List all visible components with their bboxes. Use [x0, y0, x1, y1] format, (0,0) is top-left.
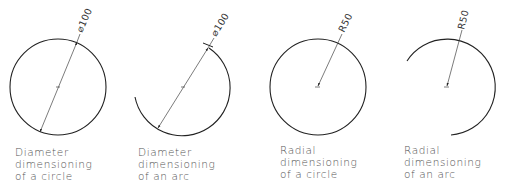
dimension-label: R50 — [336, 11, 355, 34]
caption-line: Diameter — [138, 146, 215, 158]
dimension-label: ⌀100 — [74, 6, 94, 34]
caption-diameter-circle: Diameter dimensioning of a circle — [15, 146, 92, 182]
arc-outline — [407, 39, 495, 135]
caption-diameter-arc: Diameter dimensioning of an arc — [138, 146, 215, 182]
arc-end-tick — [203, 43, 213, 47]
dimension-label: ⌀100 — [208, 11, 231, 38]
caption-line: Diameter — [15, 146, 92, 158]
caption-line: dimensioning — [138, 158, 215, 170]
radius-dimension-line — [318, 34, 342, 86]
caption-line: of an arc — [138, 170, 215, 182]
caption-line: dimensioning — [15, 158, 92, 170]
caption-line: dimensioning — [404, 156, 481, 168]
figure-radial-arc: R50 — [407, 9, 495, 135]
dimension-label: R50 — [455, 9, 470, 31]
caption-line: Radial — [404, 144, 481, 156]
caption-line: of a circle — [15, 170, 92, 182]
arc-outline — [135, 48, 230, 136]
diameter-dimension-line — [158, 48, 208, 128]
figure-diameter-circle: ⌀100 — [10, 6, 106, 135]
caption-line: of a circle — [280, 168, 357, 180]
caption-line: dimensioning — [280, 156, 357, 168]
caption-radial-circle: Radial dimensioning of a circle — [280, 144, 357, 180]
figure-diameter-arc: ⌀100 — [135, 11, 231, 136]
radius-dimension-line — [447, 30, 462, 86]
caption-radial-arc: Radial dimensioning of an arc — [404, 144, 481, 180]
caption-line: of an arc — [404, 168, 481, 180]
caption-line: Radial — [280, 144, 357, 156]
figure-radial-circle: R50 — [270, 11, 366, 135]
leader-extension — [77, 34, 80, 42]
